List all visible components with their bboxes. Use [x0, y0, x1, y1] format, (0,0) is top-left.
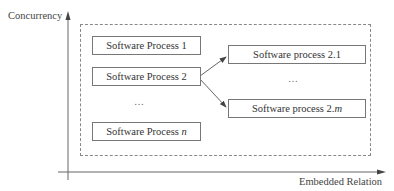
software-process-n-box: Software Process n [92, 122, 201, 141]
left-ellipsis: … [134, 96, 145, 107]
x-axis-label: Embedded Relation [299, 176, 382, 187]
box-label-prefix: Software Process [106, 71, 181, 82]
right-ellipsis: … [288, 73, 299, 84]
box-label-suffix: n [181, 126, 186, 137]
box-label-suffix: 2 [181, 71, 186, 82]
x-axis [58, 170, 386, 175]
y-axis [66, 11, 71, 180]
box-label-suffix: 1 [181, 40, 186, 51]
software-process-2-box: Software Process 2 [92, 67, 201, 86]
box-label-prefix: Software process [253, 49, 328, 60]
software-process-1-box: Software Process 1 [92, 36, 201, 55]
box-label-prefix: Software process 2. [252, 103, 335, 114]
box-label-suffix: 2.1 [328, 49, 341, 60]
y-axis-label: Concurrency [8, 10, 62, 21]
software-process-2-1-box: Software process 2.1 [228, 45, 366, 64]
box-label-prefix: Software Process [106, 40, 181, 51]
software-process-2-m-box: Software process 2.m [228, 99, 366, 118]
box-label-suffix: m [334, 103, 342, 114]
box-label-prefix: Software Process [106, 126, 181, 137]
